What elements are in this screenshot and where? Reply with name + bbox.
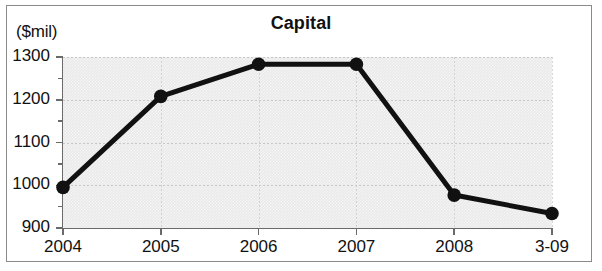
gridline-y [63,57,552,58]
x-tick [62,228,64,235]
series-markers [56,57,559,220]
x-tick [453,228,455,235]
gridline-y [63,185,552,186]
y-tick-label: 1300 [0,46,50,66]
chart-title: Capital [0,13,602,34]
x-tick-label: 2007 [316,237,396,257]
gridline-x [454,57,455,228]
x-tick [160,228,162,235]
x-tick-label: 2006 [219,237,299,257]
gridline-x [356,57,357,228]
y-tick-minor [58,120,63,122]
y-tick-label: 1200 [0,89,50,109]
y-tick-major [56,142,63,144]
y-tick-major [56,99,63,101]
y-tick-major [56,56,63,58]
gridline-x [259,57,260,228]
x-tick [356,228,358,235]
y-tick-label: 900 [0,217,50,237]
x-tick-label: 2008 [414,237,494,257]
gridline-x [161,57,162,228]
y-tick-label: 1000 [0,174,50,194]
y-tick-minor [58,78,63,80]
chart-figure: ($mil) Capital 9001000110012001300 20042… [0,0,602,271]
gridline-y [63,100,552,101]
x-tick-label: 3-09 [512,237,592,257]
x-tick-label: 2004 [23,237,103,257]
gridline-y [63,143,552,144]
x-tick [258,228,260,235]
gridline-x [552,57,553,228]
y-tick-minor [58,206,63,208]
y-tick-label: 1100 [0,132,50,152]
x-tick [551,228,553,235]
y-tick-major [56,185,63,187]
x-tick-label: 2005 [121,237,201,257]
y-tick-minor [58,163,63,165]
plot-area: 9001000110012001300 20042005200620072008… [62,57,552,229]
